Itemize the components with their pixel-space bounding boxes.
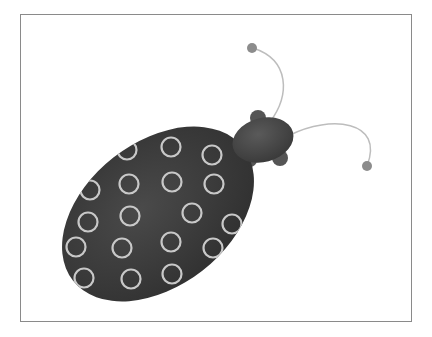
ladybug-illustration: [0, 0, 432, 337]
antenna-tip: [362, 161, 372, 171]
antenna-stalk: [290, 124, 371, 166]
antenna-tip: [247, 43, 257, 53]
